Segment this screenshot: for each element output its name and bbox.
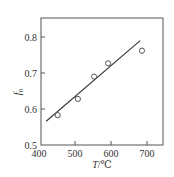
data-point-marker	[106, 61, 111, 66]
x-axis-label: T/℃	[92, 159, 112, 170]
regression-line	[46, 41, 140, 122]
chart: 400500600700 0.50.60.70.8 T/℃ f0	[0, 0, 174, 177]
x-tick-label: 500	[68, 148, 83, 159]
data-point-marker	[55, 113, 60, 118]
plot-frame	[41, 18, 163, 145]
x-tick-label: 700	[140, 148, 155, 159]
x-axis-ticks: 400500600700	[32, 141, 155, 159]
y-axis-label: f0	[12, 88, 25, 95]
x-tick-label: 600	[104, 148, 119, 159]
data-point-marker	[139, 48, 144, 53]
fit-line	[46, 41, 140, 122]
y-tick-label: 0.8	[25, 32, 38, 43]
y-tick-label: 0.5	[25, 140, 38, 151]
data-points	[55, 48, 144, 118]
data-point-marker	[75, 96, 80, 101]
data-point-marker	[91, 74, 96, 79]
y-tick-label: 0.7	[25, 68, 38, 79]
y-axis-ticks: 0.50.60.70.8	[25, 32, 46, 151]
y-tick-label: 0.6	[25, 104, 38, 115]
